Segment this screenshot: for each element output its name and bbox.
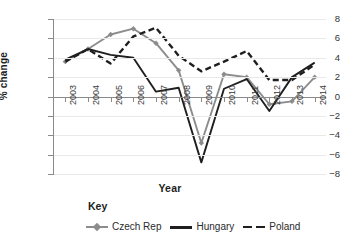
x-tick-mark bbox=[247, 97, 248, 102]
gridline bbox=[54, 116, 326, 117]
x-tick-label: 2010 bbox=[228, 84, 237, 104]
gridline bbox=[54, 19, 326, 20]
data-point-marker bbox=[199, 140, 204, 145]
legend-title: Key bbox=[88, 200, 107, 212]
series-line-poland bbox=[65, 28, 314, 80]
x-tick-mark bbox=[179, 97, 180, 102]
legend-swatch-icon bbox=[86, 222, 108, 232]
x-tick-label: 2008 bbox=[183, 84, 192, 104]
x-tick-label: 2011 bbox=[251, 85, 260, 104]
x-tick-mark bbox=[269, 97, 270, 102]
legend-item-czech-rep[interactable]: Czech Rep bbox=[86, 222, 161, 232]
legend-swatch-icon bbox=[243, 222, 265, 232]
legend-label: Poland bbox=[269, 222, 300, 232]
gridline bbox=[54, 58, 326, 59]
legend-label: Czech Rep bbox=[112, 222, 161, 232]
x-tick-label: 2004 bbox=[92, 84, 101, 104]
x-tick-label: 2007 bbox=[160, 84, 169, 104]
chart-figure: % change 86420−2−4−6−8 20032004200520062… bbox=[0, 0, 340, 247]
data-point-marker bbox=[221, 72, 226, 77]
x-tick-mark bbox=[292, 97, 293, 102]
gridline bbox=[54, 174, 326, 175]
x-tick-mark bbox=[315, 97, 316, 102]
legend-label: Hungary bbox=[196, 222, 234, 232]
x-tick-mark bbox=[201, 97, 202, 102]
legend-item-hungary[interactable]: Hungary bbox=[170, 222, 234, 232]
x-tick-mark bbox=[224, 97, 225, 102]
gridline bbox=[54, 135, 326, 136]
x-tick-label: 2013 bbox=[296, 84, 305, 104]
x-tick-mark bbox=[111, 97, 112, 102]
x-tick-label: 2009 bbox=[205, 84, 214, 104]
x-tick-label: 2014 bbox=[319, 84, 328, 104]
x-tick-label: 2006 bbox=[137, 84, 146, 104]
x-tick-mark bbox=[88, 97, 89, 102]
x-tick-label: 2005 bbox=[115, 84, 124, 104]
x-tick-mark bbox=[156, 97, 157, 102]
gridline bbox=[54, 38, 326, 39]
y-axis-title: % change bbox=[0, 52, 9, 100]
x-axis-title: Year bbox=[0, 182, 340, 194]
legend: Czech RepHungaryPoland bbox=[86, 222, 336, 232]
x-tick-label: 2003 bbox=[69, 84, 78, 104]
legend-item-poland[interactable]: Poland bbox=[243, 222, 300, 232]
gridline bbox=[54, 155, 326, 156]
gridline bbox=[54, 77, 326, 78]
x-tick-mark bbox=[133, 97, 134, 102]
x-tick-label: 2012 bbox=[273, 84, 282, 104]
legend-swatch-icon bbox=[170, 222, 192, 232]
x-tick-mark bbox=[65, 97, 66, 102]
